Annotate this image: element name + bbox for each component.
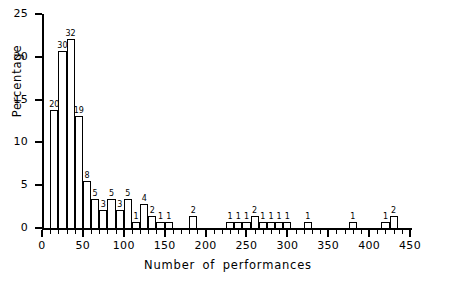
x-tick-minor-20 xyxy=(58,230,59,234)
histogram-bar xyxy=(189,216,197,228)
x-tick-minor-140 xyxy=(156,230,157,234)
histogram-bar xyxy=(50,110,58,228)
y-axis-title: Percentage xyxy=(10,26,24,136)
x-tick-minor-180 xyxy=(189,230,190,234)
x-tick-minor-240 xyxy=(238,230,239,234)
x-tick-label-150: 150 xyxy=(145,239,185,252)
x-tick-250 xyxy=(245,230,247,237)
x-tick-minor-430 xyxy=(394,230,395,234)
x-tick-minor-160 xyxy=(173,230,174,234)
x-tick-450 xyxy=(409,230,411,237)
x-tick-label-200: 200 xyxy=(186,239,226,252)
x-tick-minor-320 xyxy=(304,230,305,234)
x-tick-200 xyxy=(205,230,207,237)
y-tick-15 xyxy=(35,99,42,101)
x-tick-minor-40 xyxy=(75,230,76,234)
y-tick-25 xyxy=(35,13,42,15)
x-tick-minor-410 xyxy=(377,230,378,234)
x-tick-minor-380 xyxy=(353,230,354,234)
histogram-bar xyxy=(304,222,312,228)
x-tick-150 xyxy=(164,230,166,237)
histogram-figure: 0510152025 050100150200250300350400450 2… xyxy=(0,0,456,282)
bar-value-label: 1 xyxy=(260,212,265,221)
histogram-bar xyxy=(242,222,250,228)
x-tick-label-0: 0 xyxy=(22,239,62,252)
bar-value-label: 1 xyxy=(158,212,163,221)
x-tick-label-350: 350 xyxy=(308,239,348,252)
x-tick-minor-120 xyxy=(140,230,141,234)
histogram-bar xyxy=(390,216,398,228)
histogram-bar xyxy=(251,216,259,228)
bar-value-label: 1 xyxy=(268,212,273,221)
bar-value-label: 4 xyxy=(142,194,147,203)
histogram-bar xyxy=(83,181,91,228)
x-tick-minor-220 xyxy=(222,230,223,234)
x-tick-0 xyxy=(41,230,43,237)
histogram-bar xyxy=(91,199,99,228)
histogram-bar xyxy=(67,39,75,228)
x-tick-minor-370 xyxy=(345,230,346,234)
y-tick-5 xyxy=(35,184,42,186)
x-tick-minor-440 xyxy=(402,230,403,234)
y-tick-10 xyxy=(35,141,42,143)
x-tick-minor-30 xyxy=(67,230,68,234)
histogram-bar xyxy=(226,222,234,228)
x-tick-350 xyxy=(327,230,329,237)
y-tick-20 xyxy=(35,56,42,58)
x-tick-minor-210 xyxy=(214,230,215,234)
x-tick-100 xyxy=(123,230,125,237)
y-tick-label-25: 25 xyxy=(0,7,28,20)
x-tick-minor-10 xyxy=(50,230,51,234)
x-tick-minor-260 xyxy=(255,230,256,234)
bar-value-label: 2 xyxy=(391,206,396,215)
x-tick-minor-340 xyxy=(320,230,321,234)
bar-value-label: 5 xyxy=(125,189,130,198)
histogram-bar xyxy=(148,216,156,228)
bar-value-label: 1 xyxy=(228,212,233,221)
x-tick-minor-270 xyxy=(263,230,264,234)
x-tick-minor-170 xyxy=(181,230,182,234)
y-tick-label-10: 10 xyxy=(0,135,28,148)
x-tick-300 xyxy=(286,230,288,237)
histogram-bar xyxy=(381,222,389,228)
bar-value-label: 1 xyxy=(166,212,171,221)
x-tick-minor-360 xyxy=(336,230,337,234)
bar-value-label: 1 xyxy=(350,212,355,221)
histogram-bar xyxy=(124,199,132,228)
x-tick-label-50: 50 xyxy=(63,239,103,252)
histogram-bar xyxy=(165,222,173,228)
x-tick-label-400: 400 xyxy=(349,239,389,252)
bar-value-label: 1 xyxy=(285,212,290,221)
x-axis-title: Number of performances xyxy=(0,258,456,272)
histogram-bar xyxy=(267,222,275,228)
x-tick-minor-190 xyxy=(197,230,198,234)
bar-value-label: 19 xyxy=(74,106,84,115)
bar-value-label: 2 xyxy=(252,206,257,215)
bar-value-label: 1 xyxy=(236,212,241,221)
histogram-bar xyxy=(75,116,83,228)
x-tick-minor-280 xyxy=(271,230,272,234)
bar-value-label: 5 xyxy=(93,189,98,198)
histogram-bar xyxy=(58,51,66,228)
bar-value-label: 32 xyxy=(66,29,76,38)
histogram-bar xyxy=(275,222,283,228)
x-tick-50 xyxy=(82,230,84,237)
x-tick-minor-110 xyxy=(132,230,133,234)
x-tick-minor-330 xyxy=(312,230,313,234)
x-tick-label-250: 250 xyxy=(226,239,266,252)
x-tick-minor-390 xyxy=(361,230,362,234)
histogram-bar xyxy=(99,210,107,228)
bar-value-label: 1 xyxy=(133,212,138,221)
histogram-bar xyxy=(140,204,148,228)
x-tick-label-100: 100 xyxy=(104,239,144,252)
x-tick-400 xyxy=(368,230,370,237)
histogram-bar xyxy=(156,222,164,228)
y-tick-0 xyxy=(35,227,42,229)
bar-value-label: 1 xyxy=(244,212,249,221)
histogram-bar xyxy=(116,210,124,228)
x-tick-minor-130 xyxy=(148,230,149,234)
x-tick-label-450: 450 xyxy=(390,239,430,252)
bar-value-label: 8 xyxy=(84,171,89,180)
plot-area: 20303219853535142112111211111112 xyxy=(42,14,410,228)
histogram-bar xyxy=(107,199,115,228)
